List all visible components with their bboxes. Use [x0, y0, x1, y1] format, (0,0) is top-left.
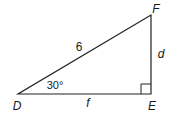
right-angle-marker — [141, 84, 151, 94]
vertex-label-d: D — [13, 100, 22, 112]
side-label-f: f — [86, 97, 89, 109]
side-label-hypotenuse: 6 — [76, 41, 83, 53]
triangle-def — [18, 15, 151, 94]
angle-label-d: 30° — [47, 80, 64, 91]
side-label-d: d — [158, 48, 165, 60]
triangle-diagram: F D E 6 d f 30° — [0, 0, 173, 115]
vertex-label-f: F — [152, 3, 159, 15]
vertex-label-e: E — [148, 100, 156, 112]
